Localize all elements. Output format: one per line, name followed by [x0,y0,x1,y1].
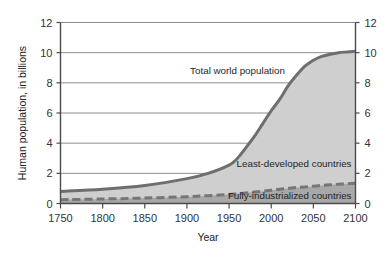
y-axis-title: Human population, in billions [16,46,28,180]
x-axis-title: Year [197,231,219,243]
x-axis-label-1800: 1800 [90,212,114,224]
x-axis-label-1950: 1950 [217,212,241,224]
y-axis-label-left-12: 12 [40,17,52,29]
y-axis-label-right-12: 12 [365,17,377,29]
y-axis-label-left-6: 6 [46,107,52,119]
x-axis-label-2100: 2100 [343,212,367,224]
x-axis-label-2050: 2050 [301,212,325,224]
y-axis-label-left-0: 0 [46,198,52,210]
annotation-fully-industrialized-countries: Fully-industrialized countries [228,190,352,201]
y-axis-label-right-0: 0 [365,198,371,210]
y-axis-label-right-8: 8 [365,77,371,89]
population-chart: 024681012 024681012 17501800185019001950… [0,0,392,258]
annotation-total-world-population: Total world population [190,65,285,76]
y-axis-label-right-10: 10 [365,47,377,59]
y-axis-label-left-4: 4 [46,137,52,149]
y-axis-label-right-6: 6 [365,107,371,119]
y-axis-label-left-8: 8 [46,77,52,89]
y-axis-label-right-2: 2 [365,167,371,179]
y-axis-label-left-10: 10 [40,47,52,59]
annotation-least-developed-countries: Least-developed countries [237,158,352,169]
chart-canvas: 024681012 024681012 17501800185019001950… [0,0,392,258]
x-axis-label-1750: 1750 [48,212,72,224]
y-axis-label-left-2: 2 [46,167,52,179]
y-axis-label-right-4: 4 [365,137,371,149]
x-axis-label-1850: 1850 [133,212,157,224]
x-axis-label-1900: 1900 [175,212,199,224]
x-axis-label-2000: 2000 [259,212,283,224]
